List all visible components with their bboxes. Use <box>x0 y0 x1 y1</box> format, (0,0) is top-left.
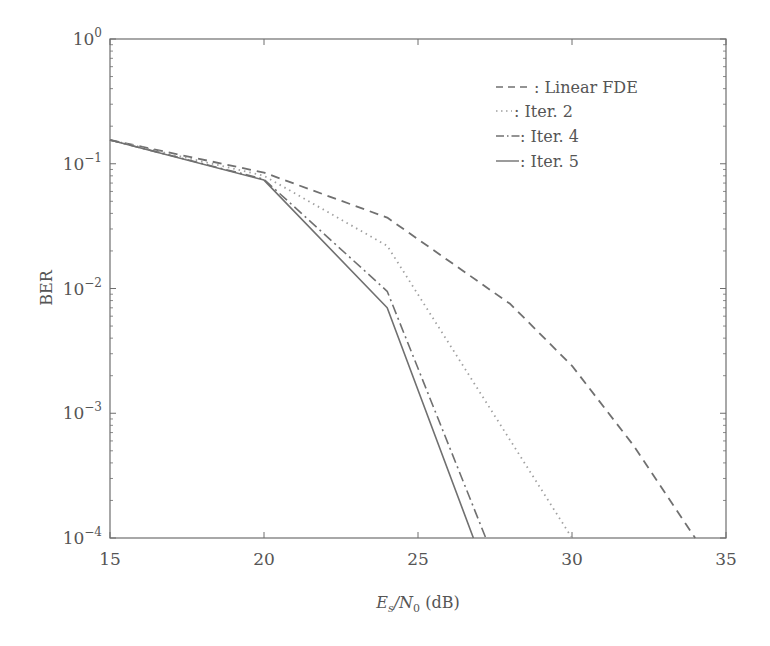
series-iter-5 <box>110 140 473 538</box>
legend-label-iter-5: : Iter. 5 <box>520 152 579 171</box>
data-series <box>110 140 695 538</box>
x-axis: 1520253035 <box>99 39 737 569</box>
legend-label-iter-2: : Iter. 2 <box>514 102 573 121</box>
x-tick-label: 35 <box>715 549 737 569</box>
x-tick-label: 25 <box>407 549 429 569</box>
ber-chart: 1520253035 10010−110−210−310−4 BER Es/N0… <box>0 0 770 646</box>
y-tick-label: 100 <box>73 26 102 49</box>
legend-label-iter-4: : Iter. 4 <box>520 127 579 146</box>
y-tick-label: 10−3 <box>63 400 102 423</box>
series-linear-fde <box>110 140 695 538</box>
legend-label-linear-fde: : Linear FDE <box>534 78 638 97</box>
x-axis-title: Es/N0 (dB) <box>375 593 459 615</box>
y-axis-title: BER <box>37 269 56 305</box>
y-tick-label: 10−2 <box>63 276 102 299</box>
x-tick-label: 30 <box>561 549 583 569</box>
x-tick-label: 15 <box>99 549 121 569</box>
series-iter-4 <box>110 140 486 538</box>
x-tick-label: 20 <box>253 549 275 569</box>
y-tick-label: 10−1 <box>63 151 102 174</box>
minor-ticks <box>110 45 726 501</box>
series-iter-2 <box>110 140 572 538</box>
plot-frame <box>110 39 726 538</box>
legend: : Linear FDE : Iter. 2 : Iter. 4 : Iter.… <box>496 78 638 171</box>
y-axis: 10010−110−210−310−4 <box>63 26 726 548</box>
y-tick-label: 10−4 <box>63 525 103 548</box>
